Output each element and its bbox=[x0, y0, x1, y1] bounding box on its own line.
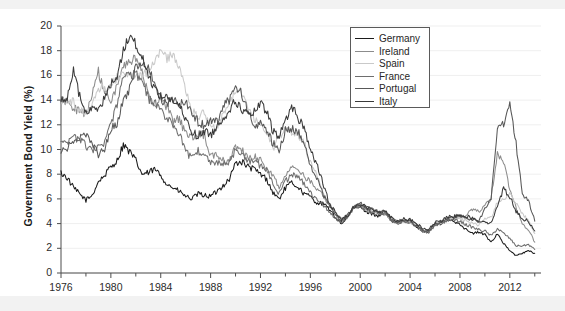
series-line-ireland bbox=[61, 55, 535, 242]
y-tick-label: 14 bbox=[28, 93, 52, 105]
legend-swatch-germany bbox=[355, 38, 374, 39]
legend-swatch-france bbox=[355, 76, 374, 77]
series-lines bbox=[61, 35, 535, 255]
legend-label-germany: Germany bbox=[379, 33, 420, 44]
legend-swatch-ireland bbox=[355, 51, 374, 52]
y-tick-label: 10 bbox=[28, 143, 52, 155]
legend-item-germany: Germany bbox=[355, 32, 420, 45]
gridlines bbox=[61, 26, 541, 273]
y-tick-label: 4 bbox=[28, 217, 52, 229]
y-tick-label: 6 bbox=[28, 192, 52, 204]
legend-item-ireland: Ireland bbox=[355, 45, 410, 58]
x-tick-label: 1996 bbox=[289, 281, 331, 293]
legend-label-italy: Italy bbox=[379, 96, 397, 107]
chart-screenshot: Government Bond Yield (%) 02468101214161… bbox=[0, 0, 565, 311]
legend-label-france: France bbox=[379, 71, 410, 82]
legend-item-italy: Italy bbox=[355, 95, 397, 108]
x-tick-label: 1976 bbox=[40, 281, 82, 293]
legend-label-ireland: Ireland bbox=[379, 46, 410, 57]
x-tick-label: 2000 bbox=[339, 281, 381, 293]
y-tick-label: 0 bbox=[28, 266, 52, 278]
y-tick-label: 8 bbox=[28, 167, 52, 179]
legend-item-france: France bbox=[355, 70, 410, 83]
chart-plot-svg bbox=[0, 0, 565, 311]
y-tick-label: 12 bbox=[28, 118, 52, 130]
x-tick-label: 2004 bbox=[389, 281, 431, 293]
chart-legend: GermanyIrelandSpainFrancePortugalItaly bbox=[350, 27, 430, 108]
legend-swatch-italy bbox=[355, 101, 374, 102]
legend-label-portugal: Portugal bbox=[379, 83, 416, 94]
legend-label-spain: Spain bbox=[379, 58, 405, 69]
x-tick-label: 2008 bbox=[439, 281, 481, 293]
y-tick-label: 18 bbox=[28, 44, 52, 56]
y-tick-label: 20 bbox=[28, 19, 52, 31]
series-line-portugal bbox=[61, 62, 535, 231]
legend-swatch-portugal bbox=[355, 88, 374, 89]
series-line-france bbox=[61, 70, 535, 249]
x-tick-label: 1980 bbox=[90, 281, 132, 293]
government-bond-yield-chart: Government Bond Yield (%) 02468101214161… bbox=[0, 0, 565, 311]
series-line-spain bbox=[61, 49, 535, 233]
y-tick-label: 16 bbox=[28, 68, 52, 80]
x-tick-label: 2012 bbox=[489, 281, 531, 293]
x-tick-label: 1984 bbox=[140, 281, 182, 293]
legend-item-spain: Spain bbox=[355, 57, 405, 70]
legend-item-portugal: Portugal bbox=[355, 82, 416, 95]
x-tick-label: 1988 bbox=[190, 281, 232, 293]
y-tick-label: 2 bbox=[28, 241, 52, 253]
legend-swatch-spain bbox=[355, 63, 374, 64]
x-tick-label: 1992 bbox=[239, 281, 281, 293]
